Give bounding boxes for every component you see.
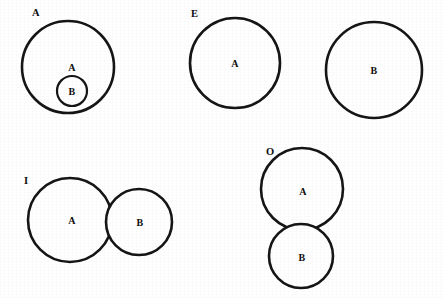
euler-diagram-figure: A A B E A B I A B O A B (0, 0, 444, 298)
set-label-a-b: B (69, 86, 76, 97)
diagram-e: E A B (190, 8, 422, 118)
diagram-i: I A B (24, 175, 172, 262)
set-label-e-a: A (231, 58, 239, 69)
diagram-tag-a: A (32, 7, 40, 18)
set-label-a-a: A (68, 62, 76, 73)
set-label-o-b: B (299, 252, 306, 263)
set-label-i-b: B (137, 217, 144, 228)
diagram-a: A A B (22, 7, 114, 113)
set-label-o-a: A (299, 186, 307, 197)
figure-canvas: A A B E A B I A B O A B (0, 0, 444, 298)
set-label-e-b: B (371, 65, 378, 76)
diagram-tag-o: O (266, 146, 274, 157)
diagram-o: O A B (261, 146, 343, 288)
diagram-tag-i: I (24, 175, 28, 186)
set-label-i-a: A (68, 215, 76, 226)
diagram-tag-e: E (191, 8, 198, 19)
